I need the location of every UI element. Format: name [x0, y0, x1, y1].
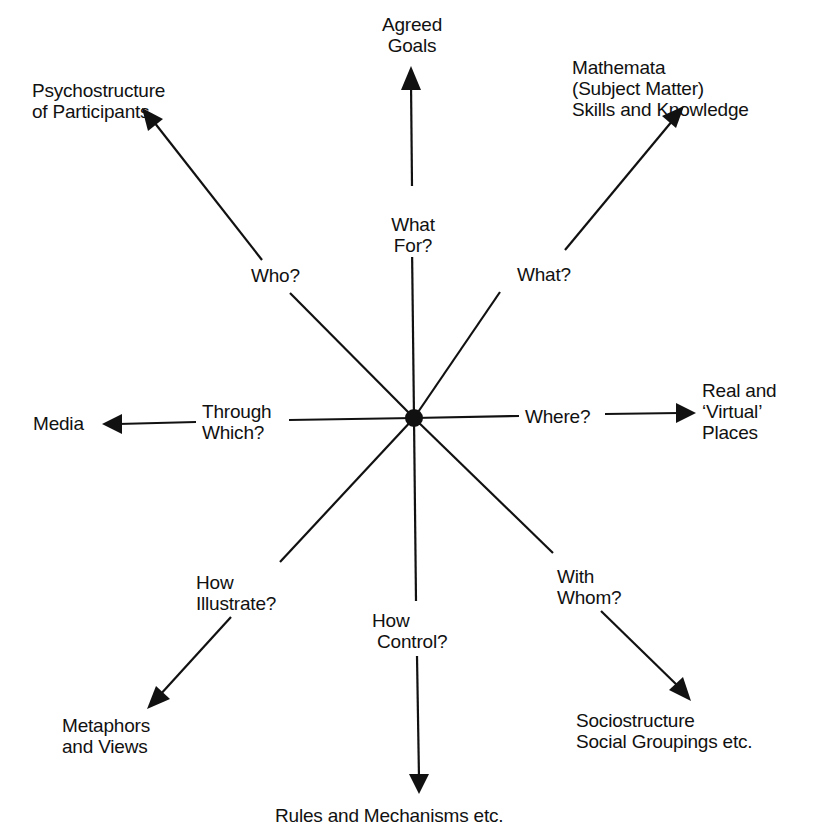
spoke-down-left [147, 418, 414, 709]
target-label-psychostructure: Psychostructure of Participants [32, 80, 165, 122]
question-label-how-illustrate: How Illustrate? [194, 571, 278, 615]
spoke-up-right [414, 106, 684, 418]
center-hub [405, 409, 423, 427]
target-label-rules-mechanisms: Rules and Mechanisms etc. [275, 805, 503, 826]
spoke-down-right [414, 418, 691, 701]
arrow-left-icon [102, 414, 122, 434]
question-label-who: Who? [249, 264, 302, 287]
arrow-up-icon [401, 66, 421, 90]
question-label-where: Where? [523, 405, 592, 428]
target-label-agreed-goals: Agreed Goals [362, 14, 462, 56]
question-label-how-control: How Control? [370, 609, 449, 653]
target-label-sociostructure: Sociostructure Social Groupings etc. [576, 710, 752, 752]
arrow-right-icon [676, 403, 696, 423]
arrow-down-left-icon [147, 686, 170, 709]
question-label-through-which: Through Which? [200, 400, 273, 444]
arrow-down-icon [409, 774, 429, 794]
target-label-media: Media [33, 413, 84, 434]
spoke-up-left [142, 108, 414, 418]
question-label-with-whom: With Whom? [555, 565, 623, 609]
spoke-down [409, 418, 429, 794]
target-label-mathemata: Mathemata (Subject Matter) Skills and Kn… [572, 57, 749, 120]
question-label-what-for: What For? [372, 213, 454, 257]
target-label-metaphors-views: Metaphors and Views [62, 715, 150, 757]
question-label-what: What? [515, 263, 573, 286]
target-label-real-virtual-places: Real and ‘Virtual’ Places [702, 380, 776, 443]
